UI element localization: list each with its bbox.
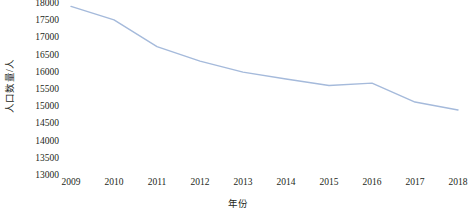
data-series-line bbox=[71, 6, 458, 110]
x-axis-tick-label: 2018 bbox=[449, 178, 468, 188]
x-axis-tick-label: 2010 bbox=[105, 178, 124, 188]
x-axis-tick-label: 2015 bbox=[320, 178, 339, 188]
x-axis-tick-label: 2011 bbox=[148, 178, 167, 188]
y-axis-tick-label: 15500 bbox=[35, 85, 59, 95]
x-axis-title: 年份 bbox=[0, 196, 476, 210]
x-axis-tick-label: 2016 bbox=[363, 178, 382, 188]
y-axis-title: 人口数量/人 bbox=[0, 0, 18, 172]
x-axis-tick-label: 2017 bbox=[406, 178, 425, 188]
y-axis-tick-label: 13000 bbox=[35, 171, 59, 181]
plot-svg bbox=[62, 4, 472, 176]
y-axis-tick-label: 15000 bbox=[35, 102, 59, 112]
y-axis-tick-labels: 1300013500140001450015000155001600016500… bbox=[18, 0, 62, 180]
line-chart: 人口数量/人 130001350014000145001500015500160… bbox=[0, 0, 476, 221]
y-axis-tick-label: 16500 bbox=[35, 51, 59, 61]
x-axis-tick-label: 2013 bbox=[234, 178, 253, 188]
plot-area bbox=[62, 4, 472, 176]
y-axis-tick-label: 18000 bbox=[35, 0, 59, 9]
y-axis-tick-label: 13500 bbox=[35, 154, 59, 164]
y-axis-tick-label: 14000 bbox=[35, 137, 59, 147]
x-axis-tick-label: 2009 bbox=[62, 178, 81, 188]
y-axis-tick-label: 14500 bbox=[35, 120, 59, 130]
x-axis-tick-label: 2014 bbox=[277, 178, 296, 188]
y-axis-tick-label: 17000 bbox=[35, 34, 59, 44]
x-axis-tick-labels: 2009201020112012201320142015201620172018 bbox=[62, 178, 472, 194]
y-axis-tick-label: 16000 bbox=[35, 68, 59, 78]
y-axis-tick-label: 17500 bbox=[35, 16, 59, 26]
y-axis-title-text: 人口数量/人 bbox=[2, 59, 16, 113]
x-axis-tick-label: 2012 bbox=[191, 178, 210, 188]
